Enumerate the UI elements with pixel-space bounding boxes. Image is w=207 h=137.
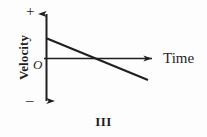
- figure-caption: III: [0, 115, 207, 128]
- origin-label: O: [33, 58, 42, 71]
- x-axis-label: Time: [163, 51, 194, 66]
- y-axis-label: Velocity: [17, 21, 30, 95]
- velocity-time-graph-figure: + – Velocity O Time III: [0, 0, 207, 137]
- y-axis-negative-sign: –: [26, 93, 34, 108]
- y-axis-positive-sign: +: [26, 4, 34, 19]
